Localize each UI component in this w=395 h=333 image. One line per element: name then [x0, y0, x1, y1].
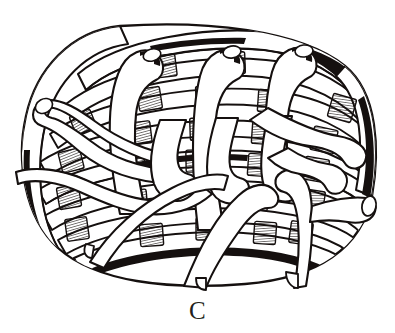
- figure-caption: C: [0, 288, 395, 333]
- basket-drawing: [0, 0, 395, 292]
- basket-illustration: [0, 0, 395, 292]
- caption-label: C: [189, 298, 206, 323]
- figure-root: C: [0, 0, 395, 333]
